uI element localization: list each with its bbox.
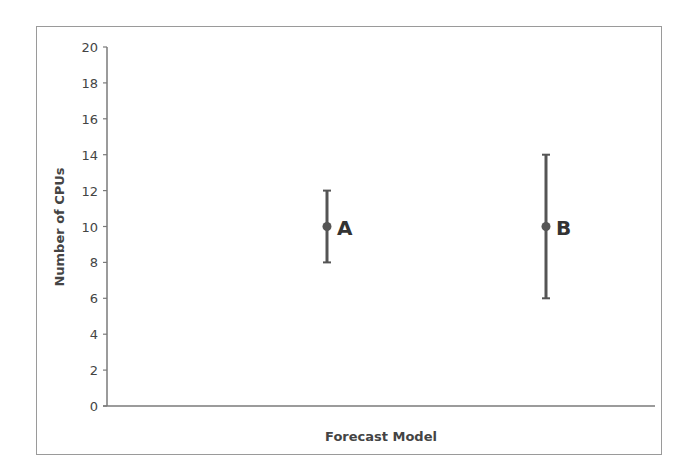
point-marker [323,222,332,231]
y-tick-label: 4 [90,327,98,342]
data-point-a: A [323,191,354,263]
y-axis: 02468101214161820 [81,40,107,414]
data-points: AB [323,155,572,299]
point-marker [542,222,551,231]
y-tick-label: 0 [90,399,98,414]
point-label: B [556,216,571,240]
y-axis-title: Number of CPUs [52,167,67,286]
y-tick-label: 16 [81,112,98,127]
y-tick-label: 6 [90,291,98,306]
y-tick-label: 2 [90,363,98,378]
y-tick-label: 18 [81,76,98,91]
error-bar-chart: 02468101214161820 AB Number of CPUs Fore… [0,0,693,473]
y-tick-label: 12 [81,184,98,199]
x-axis-title: Forecast Model [325,429,437,444]
y-tick-label: 20 [81,40,98,55]
y-tick-label: 8 [90,255,98,270]
y-tick-label: 14 [81,148,98,163]
y-tick-label: 10 [81,220,98,235]
point-label: A [337,216,353,240]
data-point-b: B [542,155,572,299]
